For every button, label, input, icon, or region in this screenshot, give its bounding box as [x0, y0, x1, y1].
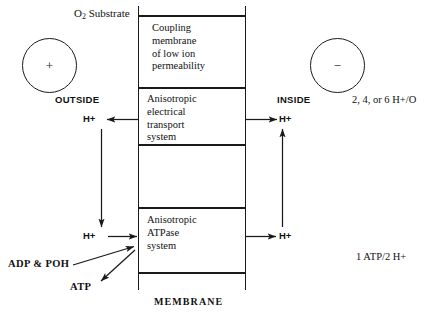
plus-icon: +	[23, 58, 76, 74]
o2-symbol: O	[74, 7, 82, 19]
proton-label-outside-bottom: H+	[83, 231, 95, 241]
inside-negative-charge-circle: −	[310, 38, 365, 93]
outside-label: OUTSIDE	[55, 95, 99, 105]
chemiosmotic-membrane-diagram: Coupling membrane of low ion permeabilit…	[0, 0, 430, 321]
compartment-coupling-membrane: Coupling membrane of low ion permeabilit…	[152, 22, 242, 73]
minus-icon: −	[311, 58, 364, 74]
o2-substrate-label: O2 Substrate	[74, 8, 130, 21]
proton-label-inside-bottom: H+	[279, 231, 291, 241]
inside-label: INSIDE	[277, 95, 310, 105]
arrow-adp-in	[73, 247, 134, 266]
substrate-word: Substrate	[86, 7, 130, 19]
proton-stoichiometry-top: 2, 4, or 6 H+/O	[352, 95, 416, 106]
proton-label-inside-top: H+	[279, 114, 291, 124]
atp-label: ATP	[70, 282, 91, 293]
membrane-caption: MEMBRANE	[154, 297, 223, 307]
outside-positive-charge-circle: +	[22, 38, 77, 93]
compartment-atpase: Anisotropic ATPase system	[147, 214, 242, 252]
compartment-electron-transport: Anisotropic electrical transport system	[147, 93, 242, 144]
atp-stoichiometry-bottom: 1 ATP/2 H+	[356, 252, 406, 263]
adp-poh-label: ADP & POH	[8, 259, 69, 270]
proton-label-outside-top: H+	[83, 114, 95, 124]
